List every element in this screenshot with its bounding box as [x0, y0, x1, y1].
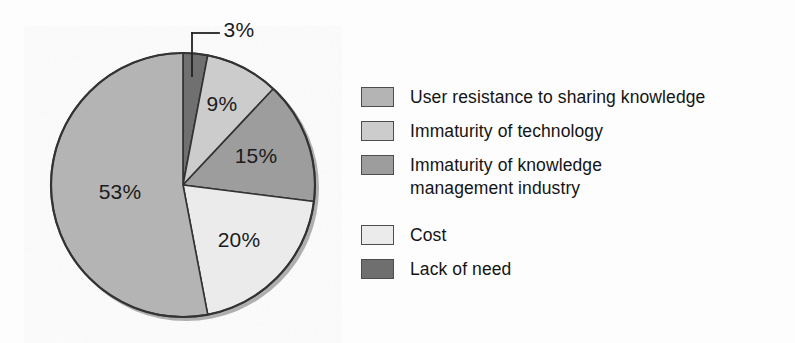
legend-item-label: Immaturity of knowledgemanagement indust… — [410, 154, 602, 200]
pie-chart-area: 3%9%15%20%53% — [0, 0, 400, 343]
pie-chart-figure: 3%9%15%20%53% User resistance to sharing… — [0, 0, 795, 343]
legend-swatch — [361, 259, 394, 279]
legend-item-label: Cost — [410, 224, 446, 247]
pie-slices — [51, 53, 315, 317]
legend-item[interactable]: Lack of need — [361, 258, 781, 281]
legend-item-label-line2: management industry — [410, 177, 602, 200]
legend-swatch — [361, 155, 394, 175]
legend-item[interactable]: User resistance to sharing knowledge — [361, 86, 781, 109]
legend-swatch — [361, 225, 394, 245]
legend-item[interactable]: Immaturity of knowledgemanagement indust… — [361, 154, 781, 200]
chart-legend: User resistance to sharing knowledgeImma… — [361, 86, 781, 292]
legend-item[interactable]: Immaturity of technology — [361, 120, 781, 143]
legend-item[interactable]: Cost — [361, 224, 781, 247]
legend-swatch — [361, 87, 394, 107]
pie-svg — [0, 0, 400, 343]
legend-item-label: User resistance to sharing knowledge — [410, 86, 705, 109]
legend-swatch — [361, 121, 394, 141]
legend-item-label: Lack of need — [410, 258, 511, 281]
legend-item-label: Immaturity of technology — [410, 120, 603, 143]
